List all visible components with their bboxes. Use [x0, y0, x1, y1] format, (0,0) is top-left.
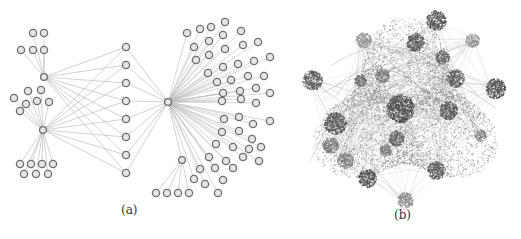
panel-b-label: (b) — [394, 208, 411, 222]
cluster-cloud — [302, 10, 506, 208]
panel-a-label: (a) — [121, 203, 138, 217]
panel-b-network-cluster-graph — [0, 0, 521, 239]
network-figure: (a) (b) — [0, 0, 521, 239]
